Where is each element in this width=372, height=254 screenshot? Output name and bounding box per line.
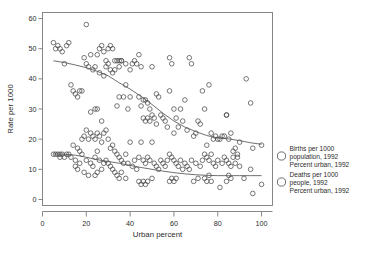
data-point: [189, 61, 194, 66]
data-point: [115, 104, 120, 109]
data-point: [180, 119, 185, 124]
legend-marker-icon: [277, 178, 285, 186]
data-point: [235, 152, 240, 157]
data-point: [150, 64, 155, 69]
data-point: [183, 98, 188, 103]
data-point: [99, 167, 104, 172]
series-deaths: [51, 128, 264, 196]
data-point: [172, 107, 177, 112]
data-point: [123, 176, 128, 181]
chart-figure: 0102030405060Rate per 1000020406080100Ur…: [0, 0, 372, 254]
data-point: [231, 155, 236, 160]
data-point: [174, 116, 179, 121]
data-point: [99, 119, 104, 124]
y-tick-label: 60: [29, 14, 37, 23]
data-point: [139, 104, 144, 109]
data-point: [259, 182, 264, 187]
x-tick-label: 0: [41, 219, 45, 228]
data-point: [84, 128, 89, 133]
data-point: [150, 176, 155, 181]
data-point: [86, 137, 91, 142]
data-point: [128, 68, 133, 73]
data-point: [180, 167, 185, 172]
data-point: [73, 158, 78, 163]
data-point: [229, 131, 234, 136]
data-point: [178, 158, 183, 163]
data-point: [82, 55, 87, 60]
data-point: [154, 122, 159, 127]
data-point: [207, 83, 212, 88]
data-point: [248, 101, 253, 106]
data-point: [137, 52, 142, 57]
legend-marker-icon: [277, 152, 285, 160]
x-axis-title: Urban percent: [133, 230, 183, 239]
data-point: [77, 161, 82, 166]
data-point: [69, 83, 74, 88]
data-point: [134, 167, 139, 172]
data-point: [128, 95, 133, 100]
data-point: [71, 143, 76, 148]
data-point: [84, 158, 89, 163]
data-point: [178, 107, 183, 112]
legend-label-line: people, 1992: [290, 179, 328, 187]
data-point: [51, 40, 56, 45]
data-point: [242, 176, 247, 181]
data-point: [123, 152, 128, 157]
data-point: [215, 158, 220, 163]
data-point: [187, 55, 192, 60]
legend: Births per 1000population, 1992Percent u…: [277, 145, 349, 194]
y-tick-label: 40: [29, 74, 37, 83]
data-point: [204, 143, 209, 148]
data-point: [99, 140, 104, 145]
series-births: [51, 22, 264, 159]
data-point: [88, 52, 93, 57]
data-point: [150, 140, 155, 145]
data-point: [119, 170, 124, 175]
data-point: [121, 95, 126, 100]
y-tick-label: 20: [29, 135, 37, 144]
data-point: [233, 161, 238, 166]
data-point: [244, 77, 249, 82]
data-point: [220, 161, 225, 166]
data-point: [250, 146, 255, 151]
data-point: [167, 89, 172, 94]
x-tick-label: 20: [82, 219, 90, 228]
y-tick-label: 10: [29, 165, 37, 174]
data-point: [95, 149, 100, 154]
data-point: [202, 107, 207, 112]
x-tick-label: 100: [256, 219, 268, 228]
data-point: [137, 155, 142, 160]
x-tick-label: 40: [126, 219, 134, 228]
data-point: [139, 140, 144, 145]
legend-entry-births[interactable]: Births per 1000population, 1992Percent u…: [277, 145, 349, 168]
legend-entry-deaths[interactable]: Deaths per 1000people, 1992Percent urban…: [277, 171, 349, 194]
x-tick-label: 80: [214, 219, 222, 228]
data-point: [139, 64, 144, 69]
data-point: [198, 164, 203, 169]
scatter-plot: 0102030405060Rate per 1000020406080100Ur…: [0, 0, 372, 254]
y-axis-title: Rate per 1000: [6, 84, 15, 134]
x-tick-label: 60: [170, 219, 178, 228]
data-point: [126, 107, 131, 112]
data-point: [82, 170, 87, 175]
data-point: [209, 152, 214, 157]
data-point: [148, 107, 153, 112]
y-tick-label: 0: [33, 195, 37, 204]
data-point: [128, 140, 133, 145]
data-point: [250, 191, 255, 196]
data-point: [237, 164, 242, 169]
data-point: [132, 158, 137, 163]
legend-label-line: Deaths per 1000: [290, 171, 339, 179]
data-point: [224, 179, 229, 184]
y-axis: 0102030405060Rate per 1000: [6, 14, 43, 204]
data-point: [209, 131, 214, 136]
data-point: [95, 52, 100, 57]
data-point: [86, 173, 91, 178]
y-tick-label: 30: [29, 105, 37, 114]
x-axis: 020406080100Urban percent: [41, 212, 273, 239]
data-point: [165, 158, 170, 163]
data-point: [102, 49, 107, 54]
data-point: [169, 61, 174, 66]
data-point: [248, 167, 253, 172]
legend-label-line: Percent urban, 1992: [290, 161, 350, 168]
